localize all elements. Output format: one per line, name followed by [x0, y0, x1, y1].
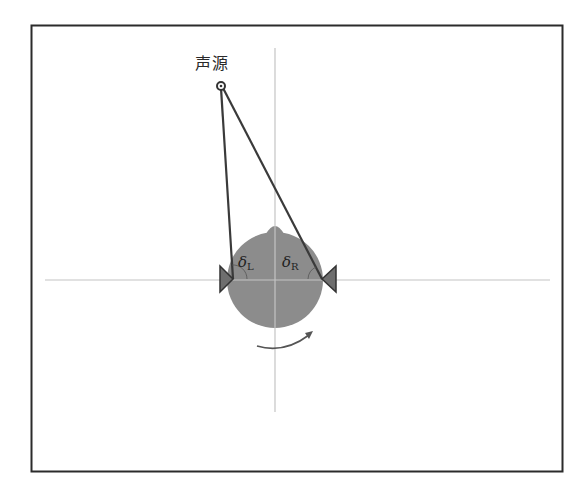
- sound-source-label: 声源: [195, 50, 229, 74]
- diagram-canvas: 声源 δL δR: [0, 0, 583, 496]
- angle-left-symbol: δ: [238, 253, 247, 271]
- angle-right-label: δR: [282, 253, 299, 272]
- sound-source-dot: [220, 85, 223, 88]
- right-ear-triangle: [322, 266, 336, 292]
- rotation-arrow: [257, 335, 309, 348]
- ray-left-ear: [221, 88, 233, 279]
- angle-right-subscript: R: [291, 261, 299, 272]
- angle-left-subscript: L: [247, 261, 254, 272]
- angle-right-symbol: δ: [282, 253, 291, 271]
- diagram-svg: [0, 0, 583, 496]
- angle-left-label: δL: [238, 253, 254, 272]
